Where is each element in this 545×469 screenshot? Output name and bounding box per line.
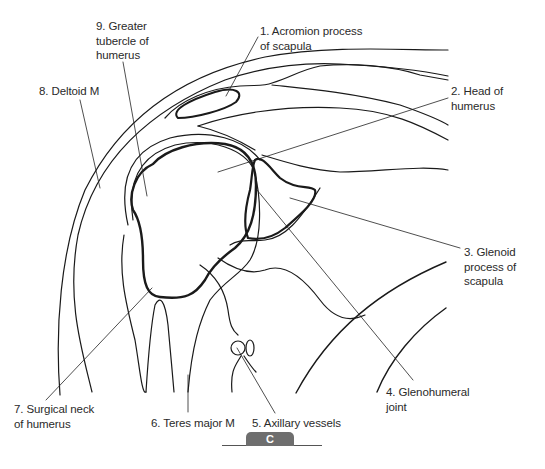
humerus-head-outline (131, 143, 256, 298)
axillary-vessel-circle (231, 341, 245, 355)
leader-4 (257, 190, 413, 380)
rib-curve-2 (377, 308, 446, 392)
clavicle-lower-line (198, 107, 448, 140)
leader-lines (46, 37, 460, 413)
label-greater-tubercle: 9. Greater tubercle of humerus (96, 19, 149, 63)
axillary-vessel-ellipse (246, 340, 254, 356)
leader-8 (80, 100, 100, 188)
label-surgical-neck: 7. Surgical neck of humerus (14, 402, 94, 431)
leader-3 (290, 198, 460, 248)
glenoid-neck-line (230, 155, 448, 245)
label-teres-major: 6. Teres major M (151, 416, 235, 431)
label-deltoid: 8. Deltoid M (39, 84, 99, 99)
label-glenoid-process: 3. Glenoid process of scapula (464, 245, 516, 289)
label-acromion-process: 1. Acromion process of scapula (260, 24, 362, 53)
label-glenohumeral-joint: 4. Glenohumeral joint (386, 385, 470, 414)
humerus-shaft-line (146, 300, 174, 392)
axillary-branch (200, 265, 238, 335)
acromion-outline (176, 90, 239, 118)
leader-9 (123, 62, 147, 196)
label-head-of-humerus: 2. Head of humerus (451, 84, 503, 113)
panel-letter: C (246, 432, 294, 446)
scapula-lower-edge (218, 258, 365, 319)
anatomy-diagram: 1. Acromion process of scapula 2. Head o… (0, 0, 545, 469)
rib-curve-1 (296, 262, 446, 393)
leader-5 (237, 348, 275, 413)
leader-2 (218, 98, 448, 172)
panel-badge: C (222, 436, 322, 446)
label-axillary-vessels: 5. Axillary vessels (252, 416, 341, 431)
